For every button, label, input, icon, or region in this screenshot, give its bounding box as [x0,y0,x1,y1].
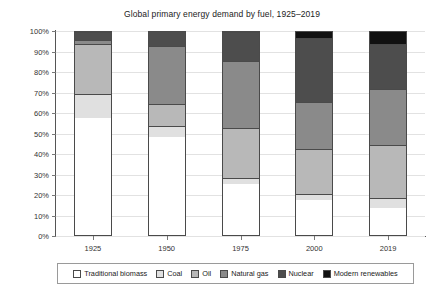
bar-segment[interactable] [223,184,259,235]
bar-segment[interactable] [149,137,185,235]
legend-item[interactable]: Traditional biomass [73,269,147,278]
bar-segment[interactable] [370,208,406,235]
legend-swatch [220,270,228,278]
bar-segment[interactable] [296,149,332,194]
y-tick-mark [52,216,56,217]
bar-column[interactable] [369,31,407,236]
legend-label: Modern renewables [334,269,398,278]
bar-segment[interactable] [223,31,259,32]
bar-segment[interactable] [223,178,259,184]
legend-label: Natural gas [231,269,268,278]
y-tick-label: 20% [34,191,49,200]
chart-legend: Traditional biomassCoalOilNatural gasNuc… [57,263,414,284]
y-tick-label: 70% [34,88,49,97]
y-tick-mark [52,93,56,94]
y-tick-mark [52,52,56,53]
y-tick-mark [52,134,56,135]
bar-column[interactable] [148,31,186,236]
bar-segment[interactable] [370,198,406,208]
x-tick-mark [167,236,168,240]
x-tick-label: 1925 [85,244,102,253]
legend-label: Oil [202,269,211,278]
x-tick-mark [314,236,315,240]
legend-swatch [191,270,199,278]
y-tick-label: 60% [34,109,49,118]
legend-item[interactable]: Oil [191,269,211,278]
y-tick-label: 80% [34,68,49,77]
y-tick-mark [52,31,56,32]
legend-label: Coal [167,269,182,278]
legend-swatch [323,270,331,278]
bar-segment[interactable] [149,31,185,46]
y-tick-label: 30% [34,170,49,179]
y-tick-mark [52,236,56,237]
bar-segment[interactable] [149,46,185,103]
y-tick-label: 0% [38,232,49,241]
y-tick-mark [52,154,56,155]
bar-segment[interactable] [75,118,111,235]
bar-segment[interactable] [223,128,259,177]
y-tick-mark [52,72,56,73]
legend-swatch [73,270,81,278]
bar-segment[interactable] [296,194,332,200]
x-tick-label: 1950 [158,244,175,253]
legend-item[interactable]: Coal [156,269,182,278]
bar-segment[interactable] [296,38,332,102]
bar-segment[interactable] [75,40,111,44]
bar-segment[interactable] [296,102,332,149]
bar-column[interactable] [295,31,333,236]
legend-label: Nuclear [289,269,314,278]
y-tick-label: 100% [30,27,49,36]
y-tick-label: 90% [34,47,49,56]
x-tick-mark [241,236,242,240]
x-tick-label: 1975 [232,244,249,253]
chart-container: Global primary energy demand by fuel, 19… [0,0,444,294]
bar-segment[interactable] [149,126,185,136]
bar-segment[interactable] [370,44,406,89]
bar-segment[interactable] [370,145,406,198]
bar-segment[interactable] [75,94,111,119]
x-tick-label: 2000 [306,244,323,253]
bar-segment[interactable] [296,200,332,235]
bar-column[interactable] [222,31,260,236]
bar-segment[interactable] [75,31,111,32]
legend-item[interactable]: Nuclear [278,269,314,278]
bar-segment[interactable] [75,32,111,40]
legend-item[interactable]: Natural gas [220,269,268,278]
bar-segment[interactable] [149,104,185,127]
bar-segment[interactable] [223,61,259,129]
bar-segment[interactable] [296,31,332,38]
bar-column[interactable] [74,31,112,236]
plot-area: 0%10%20%30%40%50%60%70%80%90%100%1925195… [56,31,425,236]
legend-item[interactable]: Modern renewables [323,269,398,278]
x-tick-label: 2019 [380,244,397,253]
y-tick-label: 10% [34,211,49,220]
x-tick-mark [388,236,389,240]
bar-segment[interactable] [370,31,406,44]
y-tick-mark [52,113,56,114]
chart-title: Global primary energy demand by fuel, 19… [0,9,444,19]
y-tick-mark [52,195,56,196]
legend-swatch [156,270,164,278]
x-tick-mark [93,236,94,240]
bar-segment[interactable] [223,32,259,61]
legend-swatch [278,270,286,278]
legend-label: Traditional biomass [84,269,147,278]
y-tick-mark [52,175,56,176]
y-tick-label: 50% [34,129,49,138]
y-tick-label: 40% [34,150,49,159]
bar-segment[interactable] [75,44,111,93]
bar-segment[interactable] [370,89,406,144]
